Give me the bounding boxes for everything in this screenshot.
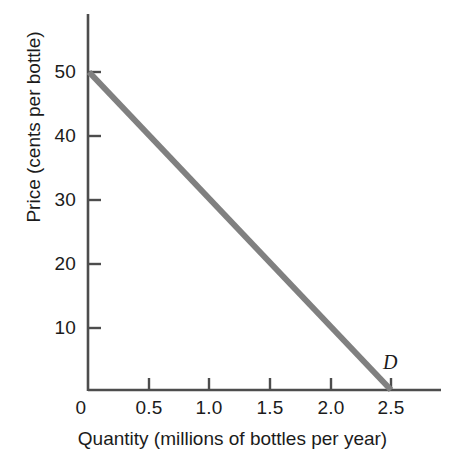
x-tick-label-2-0: 2.0 <box>317 397 344 419</box>
y-axis-title: Price (cents per bottle) <box>23 17 45 237</box>
y-tick-label-30: 30 <box>44 189 76 211</box>
x-tick-label-2-5: 2.5 <box>377 397 404 419</box>
demand-curve-label: D <box>383 351 397 374</box>
x-tick-label-1-5: 1.5 <box>256 397 283 419</box>
y-tick-label-20: 20 <box>44 253 76 275</box>
y-tick-label-40: 40 <box>44 125 76 147</box>
y-tick-label-10: 10 <box>44 317 76 339</box>
demand-curve-figure: 50 40 30 20 10 0 0.5 1.0 1.5 2.0 2.5 Pri… <box>0 0 465 462</box>
x-axis-title: Quantity (millions of bottles per year) <box>0 428 465 450</box>
x-tick-label-0: 0 <box>76 397 87 419</box>
y-tick-label-50: 50 <box>44 61 76 83</box>
x-tick-label-1-0: 1.0 <box>195 397 222 419</box>
x-tick-label-0-5: 0.5 <box>135 397 162 419</box>
